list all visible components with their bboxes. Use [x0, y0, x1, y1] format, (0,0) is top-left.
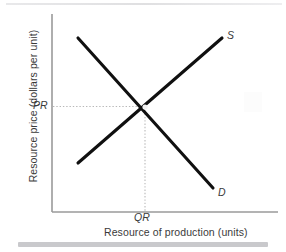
supply-curve: [78, 38, 222, 163]
y-axis-tick-label-pr: PR: [33, 99, 48, 111]
demand-curve: [78, 38, 213, 188]
equilibrium-point: [142, 104, 147, 109]
supply-curve-label: S: [227, 29, 234, 41]
x-axis-tick-label-qr: QR: [134, 211, 150, 223]
supply-demand-figure: Resource price (dollars per unit) Resour…: [0, 0, 286, 252]
demand-curve-label: D: [218, 186, 226, 198]
x-axis-label: Resource of production (units): [104, 226, 248, 238]
page-artifact: [244, 92, 262, 112]
bottom-divider: [18, 242, 268, 247]
